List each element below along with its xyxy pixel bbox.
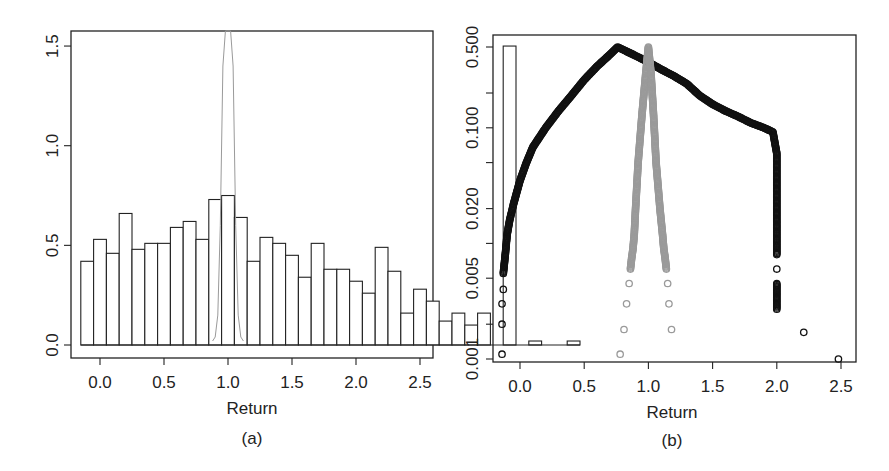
- y-tick-label: 0.0: [43, 333, 62, 357]
- y-axis-a: 0.00.51.01.5: [43, 34, 71, 357]
- histogram-bar: [81, 261, 94, 345]
- y-tick-label: 1.5: [43, 34, 62, 58]
- y-tick-label: 0.500: [463, 26, 482, 69]
- data-point: [668, 326, 674, 332]
- histogram-bar: [298, 277, 311, 345]
- histogram-bar: [401, 313, 414, 345]
- caption-a: (a): [242, 429, 263, 448]
- figure: 0.00.51.01.5 0.00.51.01.52.02.5 Return (…: [0, 0, 889, 471]
- x-axis-a: 0.00.51.01.52.02.5: [88, 358, 432, 392]
- data-point: [617, 351, 623, 357]
- histogram-bars: [81, 46, 580, 345]
- histogram-bar: [145, 243, 158, 345]
- histogram-bar: [324, 269, 337, 345]
- data-point: [835, 356, 841, 362]
- panel-a-histogram: 0.00.51.01.5 0.00.51.01.52.02.5 Return (…: [43, 31, 580, 448]
- y-tick-label: 0.001: [463, 338, 482, 381]
- data-point: [499, 351, 505, 357]
- y-tick-label: 0.005: [463, 257, 482, 300]
- histogram-bar: [158, 243, 171, 345]
- data-point: [774, 266, 780, 272]
- histogram-bar: [222, 196, 235, 345]
- y-tick-label: 0.5: [43, 234, 62, 258]
- x-tick-label: 1.0: [216, 373, 240, 392]
- histogram-bar: [196, 239, 209, 345]
- histogram-bar: [170, 227, 183, 345]
- x-tick-label: 2.0: [344, 373, 368, 392]
- data-point: [801, 329, 807, 335]
- histogram-bar: [388, 271, 401, 345]
- data-point: [664, 280, 670, 286]
- x-tick-label: 2.5: [408, 373, 432, 392]
- data-point: [621, 326, 627, 332]
- x-axis-label-b: Return: [646, 403, 697, 422]
- x-tick-label: 0.0: [88, 373, 112, 392]
- y-tick-label: 1.0: [43, 134, 62, 158]
- x-tick-label: 2.5: [829, 377, 853, 396]
- scatter-points: [499, 44, 842, 362]
- histogram-bar: [273, 243, 286, 345]
- y-tick-label: 0.020: [463, 187, 482, 230]
- x-tick-label: 1.5: [280, 373, 304, 392]
- panel-b-log-scatter: 0.0010.0050.0200.1000.500 0.00.51.01.52.…: [463, 26, 856, 450]
- data-point: [626, 280, 632, 286]
- histogram-bar: [247, 261, 260, 345]
- x-tick-label: 0.5: [152, 373, 176, 392]
- histogram-bar: [337, 269, 350, 345]
- x-tick-label: 0.0: [508, 377, 532, 396]
- caption-b: (b): [662, 431, 683, 450]
- histogram-bar: [439, 321, 452, 345]
- histogram-bar: [350, 281, 363, 345]
- x-tick-label: 1.0: [637, 377, 661, 396]
- x-axis-b: 0.00.51.01.52.02.5: [508, 362, 853, 396]
- histogram-bar: [209, 200, 222, 345]
- x-tick-label: 1.5: [701, 377, 725, 396]
- x-tick-label: 2.0: [765, 377, 789, 396]
- histogram-bar: [567, 341, 580, 345]
- data-point: [666, 301, 672, 307]
- histogram-bar: [260, 237, 273, 345]
- x-tick-label: 0.5: [572, 377, 596, 396]
- histogram-bar: [286, 255, 299, 345]
- plot-frame-b: [493, 35, 856, 362]
- histogram-bar: [362, 293, 375, 345]
- histogram-bar: [119, 213, 132, 345]
- histogram-bar: [106, 253, 119, 345]
- y-tick-label: 0.100: [463, 107, 482, 150]
- histogram-bar: [529, 341, 542, 345]
- data-point: [623, 301, 629, 307]
- histogram-bar: [311, 243, 324, 345]
- histogram-bar: [414, 289, 427, 345]
- histogram-bar: [375, 247, 388, 345]
- histogram-bar: [426, 301, 439, 345]
- histogram-bar: [94, 239, 107, 345]
- x-axis-label-a: Return: [226, 399, 277, 418]
- histogram-bar: [183, 221, 196, 345]
- histogram-bar: [132, 249, 145, 345]
